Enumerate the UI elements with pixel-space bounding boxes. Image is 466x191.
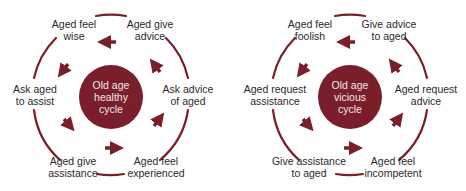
- node-left: Aged requestassistance: [244, 83, 306, 107]
- hub-line: vicious: [332, 91, 369, 103]
- node-line: Ask advice: [163, 83, 214, 95]
- node-line: Ask aged: [13, 83, 57, 95]
- node-top-left: Aged feelfoolish: [288, 18, 332, 42]
- node-line: to aged: [362, 30, 417, 42]
- hub-line: cycle: [332, 103, 369, 115]
- node-line: Aged feel: [52, 18, 96, 30]
- node-line: Give advice: [362, 18, 417, 30]
- node-line: assistance: [48, 167, 98, 179]
- node-line: Aged give: [48, 155, 98, 167]
- node-line: Aged give: [127, 18, 174, 30]
- node-line: to aged: [272, 167, 346, 179]
- node-line: wise: [52, 30, 96, 42]
- node-bottom-right: Aged feelexperienced: [127, 155, 184, 179]
- hub-line: Old age: [332, 79, 369, 91]
- node-right: Aged requestadvice: [395, 83, 457, 107]
- node-right: Ask adviceof aged: [163, 83, 214, 107]
- hub-line: healthy: [93, 91, 130, 103]
- hub-line: Old age: [93, 79, 130, 91]
- node-bottom-right: Aged feelincompetent: [364, 155, 421, 179]
- node-line: Aged request: [395, 83, 457, 95]
- node-line: advice: [395, 95, 457, 107]
- hub-line: cycle: [93, 103, 130, 115]
- node-top-right: Give adviceto aged: [362, 18, 417, 42]
- node-line: assistance: [244, 95, 306, 107]
- healthy-hub-label: Old age healthy cycle: [93, 79, 130, 115]
- node-line: incompetent: [364, 167, 421, 179]
- node-line: Give assistance: [272, 155, 346, 167]
- node-bottom-left: Aged giveassistance: [48, 155, 98, 179]
- node-line: advice: [127, 30, 174, 42]
- node-top-right: Aged giveadvice: [127, 18, 174, 42]
- node-line: Aged feel: [288, 18, 332, 30]
- node-bottom-left: Give assistanceto aged: [272, 155, 346, 179]
- node-top-left: Aged feelwise: [52, 18, 96, 42]
- node-line: Aged feel: [127, 155, 184, 167]
- node-line: Aged feel: [364, 155, 421, 167]
- node-line: experienced: [127, 167, 184, 179]
- node-left: Ask agedto assist: [13, 83, 57, 107]
- node-line: to assist: [13, 95, 57, 107]
- node-line: Aged request: [244, 83, 306, 95]
- vicious-hub-label: Old age vicious cycle: [332, 79, 369, 115]
- node-line: of aged: [163, 95, 214, 107]
- node-line: foolish: [288, 30, 332, 42]
